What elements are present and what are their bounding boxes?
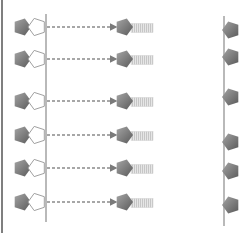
diagram-row [15,50,153,67]
moving-pentagon-icon [117,92,133,109]
outline-pentagon-icon [28,193,44,210]
moving-pentagon-icon [117,50,133,67]
striped-tail-icon [131,199,153,208]
rows-layer [15,18,153,210]
striped-tail-icon [131,24,153,33]
outline-pentagon-icon [28,50,44,67]
diagram-row [15,193,153,210]
outline-pentagon-icon [28,92,44,109]
striped-tail-icon [131,98,153,107]
membrane-diagram [0,0,242,233]
diagram-row [15,159,153,176]
moving-pentagon-icon [117,159,133,176]
membranes-layer [46,14,224,226]
diagram-row [15,18,153,35]
striped-tail-icon [131,56,153,65]
moving-pentagon-icon [117,18,133,35]
outline-pentagon-icon [28,18,44,35]
outline-pentagon-icon [28,126,44,143]
striped-tail-icon [131,132,153,141]
outline-pentagon-icon [28,159,44,176]
diagram-row [15,92,153,109]
striped-tail-icon [131,165,153,174]
moving-pentagon-icon [117,126,133,143]
diagram-row [15,126,153,143]
moving-pentagon-icon [117,193,133,210]
